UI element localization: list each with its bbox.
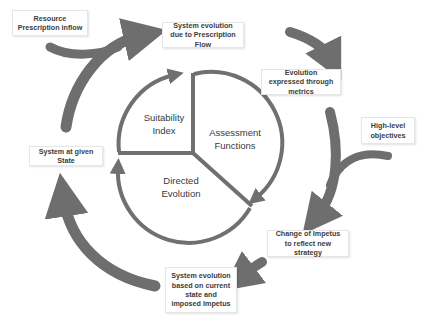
segment-suitability-index: Suitability Index xyxy=(140,112,188,138)
arrow-inflow xyxy=(50,47,118,54)
box-change-impetus: Change of Impetus to reflect new strateg… xyxy=(267,230,349,257)
box-text: System evolution due to Prescription Flo… xyxy=(167,21,239,49)
arrow-evolution-to-state xyxy=(64,200,155,286)
box-text: Resource Prescription inflow xyxy=(17,14,83,33)
arrow-impetus-to-evolution xyxy=(242,262,262,276)
box-evolution-prescription-flow: System evolution due to Prescription Flo… xyxy=(162,22,244,48)
arrow-metrics-to-impetus xyxy=(318,112,336,215)
box-text: Evolution expressed through metrics xyxy=(266,68,336,96)
box-text: Change of Impetus to reflect new strateg… xyxy=(272,229,344,257)
box-evolution-metrics: Evolution expressed through metrics xyxy=(261,69,341,95)
box-high-level-objectives: High-level objectives xyxy=(361,117,415,144)
arrow-prescription-to-metrics xyxy=(290,32,330,58)
box-text: High-level objectives xyxy=(366,121,410,140)
box-text: System at given State xyxy=(34,147,98,166)
box-text: System evolution based on current state … xyxy=(170,271,232,308)
box-resource-prescription-inflow: Resource Prescription inflow xyxy=(12,10,88,36)
inner-cycle xyxy=(118,72,282,243)
segment-assessment-functions: Assessment Functions xyxy=(205,127,265,153)
box-system-given-state: System at given State xyxy=(29,146,103,166)
box-evolution-current-state: System evolution based on current state … xyxy=(165,267,237,313)
segment-directed-evolution: Directed Evolution xyxy=(156,175,206,201)
